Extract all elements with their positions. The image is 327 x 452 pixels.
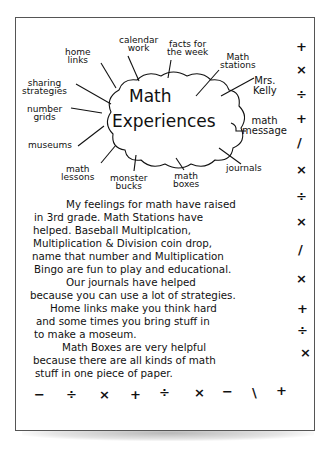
label-mrs-kelly: Mrs. Kelly (253, 76, 277, 96)
paragraph-line: Multiplication & Division coin drop, (33, 237, 212, 250)
times-symbol: × (296, 163, 307, 176)
label-calendar-work: calendar work (119, 36, 158, 52)
label-math-stations: Math stations (220, 53, 256, 69)
label-monster-bucks: monster bucks (110, 174, 147, 190)
label-home-links: home links (65, 48, 91, 64)
times-symbol: × (296, 272, 307, 285)
minus-symbol: − (222, 385, 233, 398)
label-number-grids: number grids (27, 105, 62, 121)
paragraph-line: name that number and Multiplication (32, 250, 224, 263)
divide-symbol: ÷ (159, 386, 170, 399)
divide-symbol: ÷ (296, 88, 307, 101)
paragraph-line: Bingo are fun to play and educational. (34, 263, 231, 276)
paragraph-line: My feelings for math have raised (66, 198, 236, 211)
paragraph-line: Our journals have helped (66, 276, 196, 289)
title-experiences: Experiences (112, 113, 216, 130)
label-math-boxes: math boxes (173, 172, 199, 188)
backslash-symbol: \ (252, 386, 257, 399)
times-symbol: × (296, 215, 307, 228)
divide-symbol: ÷ (296, 190, 307, 203)
label-museums: museums (28, 141, 72, 149)
plus-symbol: + (296, 112, 307, 125)
times-symbol: × (194, 386, 205, 399)
paragraph-line: stuff in one piece of paper. (35, 367, 173, 380)
times-symbol: × (296, 63, 307, 76)
minus-symbol: − (34, 388, 45, 401)
plus-symbol: + (276, 384, 287, 397)
handwritten-page: Math Experiences home links calendar wor… (15, 17, 315, 431)
label-sharing-strategies: sharing strategies (22, 79, 67, 95)
label-journals: journals (226, 164, 262, 172)
label-math-message: math message (242, 116, 287, 136)
paragraph-line: because you can use a lot of strategies. (30, 289, 236, 302)
slash-symbol: / (298, 243, 303, 256)
paragraph-line: Home links make you think hard (50, 302, 217, 315)
slash-symbol: / (297, 136, 302, 149)
title-math: Math (129, 88, 172, 105)
paragraph-line: helped. Baseball Multiplcation, (33, 224, 191, 237)
times-symbol: × (99, 388, 110, 401)
label-facts-for-the-week: facts for the week (167, 40, 208, 56)
paragraph-line: Math Boxes are very helpful (62, 341, 206, 354)
paragraph-line: in 3rd grade. Math Stations have (34, 211, 203, 224)
paragraph-line: because there are all kinds of math (33, 354, 216, 367)
plus-symbol: + (130, 388, 141, 401)
plus-symbol: + (296, 40, 307, 53)
label-math-lessons: math lessons (61, 165, 94, 181)
plus-symbol: + (297, 302, 308, 315)
divide-symbol: ÷ (66, 388, 77, 401)
paragraph-line: and some times you bring stuff in (36, 315, 210, 328)
paragraph-line: to make a moseum. (34, 328, 137, 341)
divide-symbol: ÷ (297, 324, 308, 337)
times-symbol: × (300, 346, 311, 359)
